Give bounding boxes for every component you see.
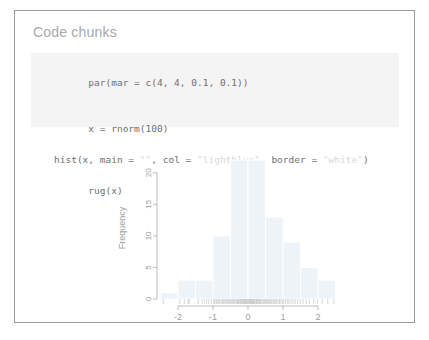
histogram-bar — [161, 293, 179, 299]
code-text: par(mar = c(4, 4, 0.1, 0.1)) — [88, 77, 248, 88]
x-axis-tick-label: -1 — [209, 312, 217, 322]
histogram-bar — [231, 160, 249, 299]
histogram-bar — [248, 160, 266, 299]
x-axis-tick-label: 1 — [280, 312, 285, 322]
code-line-1: par(mar = c(4, 4, 0.1, 0.1)) — [54, 59, 399, 106]
y-axis-tick-label: 5 — [144, 265, 153, 270]
histogram-bar — [178, 280, 196, 299]
histogram-bar — [318, 280, 336, 299]
histogram-plot: 05101520-2-1012Frequency — [115, 149, 345, 329]
page-title: Code chunks — [33, 24, 117, 40]
code-text: ) — [363, 154, 369, 165]
plot-bars — [161, 160, 336, 299]
code-text: x = rnorm(100) — [88, 123, 168, 134]
code-line-2: x = rnorm(100) — [54, 106, 399, 153]
y-axis-tick-label: 15 — [144, 199, 153, 208]
y-axis-tick-label: 20 — [144, 168, 153, 177]
x-axis-tick-label: 0 — [245, 312, 250, 322]
histogram-bar — [213, 236, 231, 299]
histogram-svg: 05101520-2-1012Frequency — [115, 149, 345, 329]
plot-rug — [163, 299, 333, 304]
x-axis-tick-label: 2 — [315, 312, 320, 322]
x-axis-tick-label: -2 — [174, 312, 182, 322]
histogram-bar — [266, 217, 284, 299]
slide-frame: Code chunks par(mar = c(4, 4, 0.1, 0.1))… — [14, 10, 415, 323]
y-axis-tick-label: 0 — [144, 296, 153, 301]
y-axis-title: Frequency — [117, 206, 127, 249]
y-axis-tick-label: 10 — [144, 231, 153, 240]
histogram-bar — [301, 267, 319, 299]
histogram-bar — [283, 242, 301, 299]
code-chunk-block: par(mar = c(4, 4, 0.1, 0.1)) x = rnorm(1… — [31, 53, 399, 127]
histogram-bar — [196, 280, 214, 299]
